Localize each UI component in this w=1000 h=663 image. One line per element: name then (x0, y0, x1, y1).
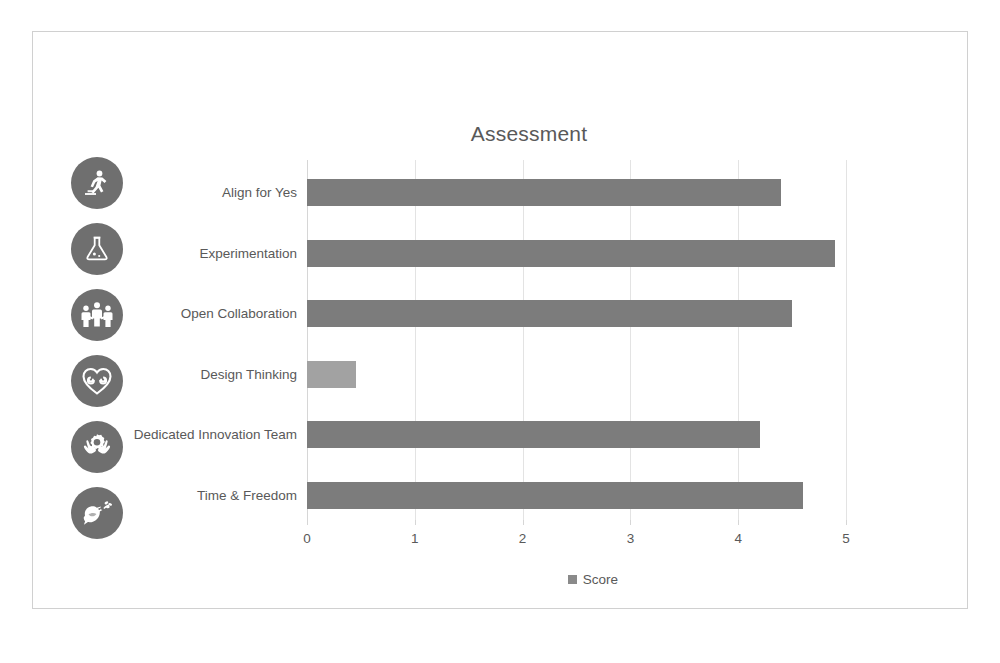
flask-icon (71, 223, 123, 275)
legend-swatch-score (568, 575, 577, 584)
category-label: Open Collaboration (181, 300, 297, 327)
chart-frame: Assessment (32, 31, 968, 609)
bar-row: Align for Yes (307, 166, 846, 218)
tick-mark-1 (415, 520, 416, 525)
bar[interactable] (307, 300, 792, 327)
x-axis: 012345 (307, 525, 879, 553)
bar-row: Time & Freedom (307, 469, 846, 521)
page-title: Assessment (33, 122, 967, 146)
running-person-icon (71, 157, 123, 209)
bar-row: Dedicated Innovation Team (307, 408, 846, 460)
tick-mark-5 (846, 520, 847, 525)
tick-mark-3 (630, 520, 631, 525)
category-label: Design Thinking (200, 361, 297, 388)
tick-label-3: 3 (627, 531, 635, 546)
category-label: Align for Yes (222, 179, 297, 206)
bar[interactable] (307, 179, 781, 206)
tick-mark-2 (523, 520, 524, 525)
bar[interactable] (307, 240, 835, 267)
three-people-icon (71, 289, 123, 341)
tick-mark-0 (307, 520, 308, 525)
tick-mark-4 (738, 520, 739, 525)
bar[interactable] (307, 361, 356, 388)
category-label: Dedicated Innovation Team (134, 421, 297, 448)
category-label: Experimentation (199, 240, 297, 267)
tick-label-4: 4 (734, 531, 742, 546)
tick-label-1: 1 (411, 531, 419, 546)
hands-holding-gear-icon (71, 421, 123, 473)
chart-title-text: Assessment (471, 122, 587, 145)
bar[interactable] (307, 421, 760, 448)
plot-area: Align for YesExperimentationOpen Collabo… (307, 160, 879, 525)
legend: Score (307, 572, 879, 587)
legend-label-score: Score (583, 572, 618, 587)
tick-label-5: 5 (842, 531, 850, 546)
bar-row: Experimentation (307, 227, 846, 279)
category-label: Time & Freedom (197, 482, 297, 509)
icon-rail (59, 157, 143, 547)
tick-label-0: 0 (303, 531, 311, 546)
gridline-5 (846, 160, 847, 525)
bar-row: Design Thinking (307, 348, 846, 400)
bar-row: Open Collaboration (307, 287, 846, 339)
heart-spiral-icon (71, 355, 123, 407)
bar[interactable] (307, 482, 803, 509)
tick-label-2: 2 (519, 531, 527, 546)
dove-olive-branch-icon (71, 487, 123, 539)
